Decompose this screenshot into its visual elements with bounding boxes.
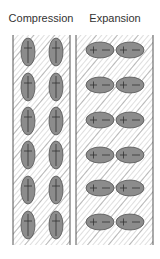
expansion-ellipse (86, 214, 114, 230)
expansion-ellipse (116, 112, 144, 128)
expansion-ellipse (116, 214, 144, 230)
expansion-ellipse (116, 180, 144, 196)
compression-ellipse (21, 73, 35, 101)
expansion-ellipse (116, 147, 144, 163)
compression-ellipse (49, 107, 63, 135)
compression-ellipse (21, 211, 35, 239)
expansion-ellipse (86, 77, 114, 93)
expansion-ellipse (86, 42, 114, 58)
expansion-ellipse (86, 180, 114, 196)
compression-ellipse (49, 211, 63, 239)
compression-ellipse (49, 141, 63, 169)
diagram-canvas (0, 0, 160, 259)
compression-ellipse (21, 38, 35, 66)
compression-ellipse (49, 73, 63, 101)
compression-panel (13, 35, 70, 245)
expansion-panel (76, 35, 153, 245)
expansion-ellipse (116, 42, 144, 58)
expansion-ellipse (116, 77, 144, 93)
compression-ellipse (49, 176, 63, 204)
expansion-ellipse (86, 112, 114, 128)
compression-ellipse (21, 176, 35, 204)
compression-ellipse (21, 107, 35, 135)
compression-ellipse (21, 141, 35, 169)
compression-ellipse (49, 38, 63, 66)
expansion-ellipse (86, 147, 114, 163)
